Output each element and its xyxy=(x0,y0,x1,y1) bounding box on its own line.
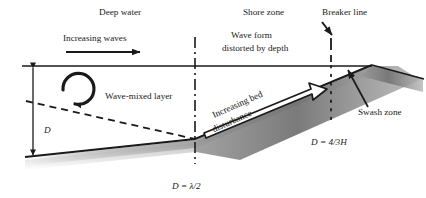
increasing-waves-label: Increasing waves xyxy=(63,33,127,43)
coastal-wave-zone-diagram: D Deep water Shore zone Breaker line Inc… xyxy=(0,0,426,198)
diagram-canvas: D Deep water Shore zone Breaker line Inc… xyxy=(0,0,426,198)
deep-water-label: Deep water xyxy=(99,7,141,17)
wave-form-label-line1: Wave form xyxy=(231,30,272,40)
depth-symbol-label: D xyxy=(43,125,51,135)
breaker-line-label: Breaker line xyxy=(322,7,367,17)
breaker-depth-equation: D = 4/3H xyxy=(310,137,348,147)
swash-zone-label: Swash zone xyxy=(358,107,402,117)
half-wavelength-equation: D = λ/2 xyxy=(171,181,201,191)
wave-mixed-layer-label: Wave-mixed layer xyxy=(105,91,172,101)
shore-zone-label: Shore zone xyxy=(243,7,284,17)
wave-form-label-line2: distorted by depth xyxy=(222,43,289,53)
